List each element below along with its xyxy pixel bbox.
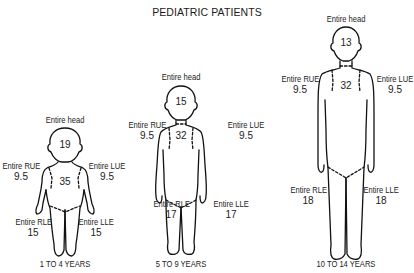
fig3-age-label: 10 TO 14 YEARS <box>308 259 384 269</box>
fig3-lle-value: 18 <box>368 195 394 206</box>
fig3-lue-label: Entire LUE <box>377 74 414 84</box>
fig1-rue-value: 9.5 <box>6 171 36 182</box>
fig2-rle-value: 17 <box>158 209 184 220</box>
fig2-rue-label: Entire RUE <box>129 120 166 130</box>
fig2-lle-value: 17 <box>218 209 244 220</box>
fig3-rle-label: Entire RLE <box>290 185 325 195</box>
fig1-head-label: Entire head <box>43 115 87 125</box>
figure-3-outline <box>318 27 374 259</box>
figure-2-outline <box>156 86 207 254</box>
fig1-rle-label: Entire RLE <box>15 217 50 227</box>
figure-1-dashes <box>49 168 81 212</box>
fig1-lle-label: Entire LLE <box>78 217 113 227</box>
fig1-lue-label: Entire LUE <box>89 161 126 171</box>
fig3-lue-value: 9.5 <box>380 84 410 95</box>
fig3-rue-label: Entire RUE <box>282 74 319 84</box>
fig2-rue-value: 9.5 <box>132 130 162 141</box>
fig2-lle-label: Entire LLE <box>213 199 248 209</box>
fig3-rle-value: 18 <box>295 195 321 206</box>
fig2-trunk-value: 32 <box>171 130 191 141</box>
fig2-head-value: 15 <box>171 96 191 107</box>
fig1-age-label: 1 TO 4 YEARS <box>30 259 100 269</box>
fig2-head-label: Entire head <box>159 72 203 82</box>
fig3-head-label: Entire head <box>324 14 368 24</box>
fig1-lle-value: 15 <box>83 227 109 238</box>
fig3-rue-value: 9.5 <box>285 84 315 95</box>
fig2-rle-label: Entire RLE <box>153 199 188 209</box>
fig1-lue-value: 9.5 <box>92 171 122 182</box>
fig2-lue-value: 9.5 <box>231 130 261 141</box>
fig3-head-value: 13 <box>336 37 356 48</box>
fig1-rue-label: Entire RUE <box>3 161 40 171</box>
fig2-lue-label: Entire LUE <box>228 120 265 130</box>
fig3-lle-label: Entire LLE <box>363 185 398 195</box>
fig1-rle-value: 15 <box>20 227 46 238</box>
fig2-age-label: 5 TO 9 YEARS <box>146 259 216 269</box>
fig1-trunk-value: 35 <box>55 176 75 187</box>
fig3-trunk-value: 32 <box>336 80 356 91</box>
fig1-head-value: 19 <box>55 139 75 150</box>
